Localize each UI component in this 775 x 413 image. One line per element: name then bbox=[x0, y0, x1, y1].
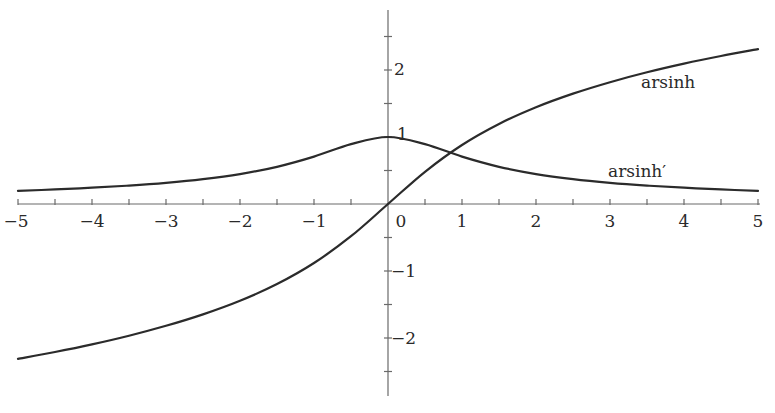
x-tick-label: −3 bbox=[153, 211, 178, 231]
x-tick-label: 3 bbox=[605, 211, 616, 231]
x-tick-label: 4 bbox=[679, 211, 690, 231]
x-tick-label: 5 bbox=[753, 211, 764, 231]
x-tick-label: 1 bbox=[457, 211, 468, 231]
y-tick-label: −1 bbox=[391, 261, 416, 281]
y-tick-label: 2 bbox=[394, 59, 405, 79]
x-tick-label: −5 bbox=[3, 211, 28, 231]
arsinh-label: arsinh bbox=[641, 72, 695, 92]
x-tick-label: 0 bbox=[396, 211, 407, 231]
arsinh-derivative-label: arsinh′ bbox=[608, 161, 666, 181]
y-tick-label: 1 bbox=[397, 124, 408, 144]
y-tick-label: −2 bbox=[391, 328, 416, 348]
x-tick-label: −2 bbox=[227, 211, 252, 231]
arsinh-chart: −5 −4 −3 −2 −1 0 1 2 3 4 5 2 1 −1 −2 ars… bbox=[0, 0, 775, 413]
x-tick-label: −1 bbox=[301, 211, 326, 231]
x-tick-label: −4 bbox=[79, 211, 104, 231]
x-tick-label: 2 bbox=[531, 211, 542, 231]
